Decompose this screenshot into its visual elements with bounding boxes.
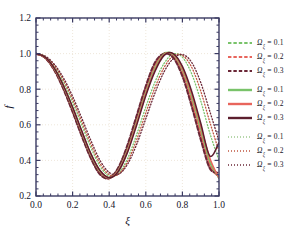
series-line <box>36 53 219 178</box>
legend-line-swatch <box>228 85 252 95</box>
series-line <box>36 54 219 177</box>
legend-item-label: Ωξ = 0.2 <box>257 146 284 157</box>
legend-line-swatch <box>228 52 252 62</box>
legend-line-swatch <box>228 113 252 123</box>
legend-line-swatch <box>228 66 252 76</box>
xtick-label: 0.0 <box>30 200 42 210</box>
legend-item[interactable]: Ωξ = 0.1 <box>228 83 304 97</box>
legend-item-label: Ωξ = 0.2 <box>257 99 284 110</box>
y-axis-title: f <box>2 104 14 109</box>
legend-item[interactable]: Ωξ = 0.2 <box>228 50 304 64</box>
gridlines <box>36 18 219 196</box>
legend-item-label: Ωξ = 0.3 <box>257 66 284 77</box>
xtick-label: 0.2 <box>67 200 79 210</box>
legend-line-swatch <box>228 38 252 48</box>
frame-rect <box>36 18 219 196</box>
legend-item-label: Ωξ = 0.2 <box>257 52 284 63</box>
legend-group-dotted: Ωξ = 0.1Ωξ = 0.2Ωξ = 0.3 <box>228 130 304 172</box>
axis-ticks <box>36 18 219 196</box>
legend-item-label: Ωξ = 0.1 <box>257 132 284 143</box>
legend-item-label: Ωξ = 0.3 <box>257 160 284 171</box>
legend-item[interactable]: Ωξ = 0.1 <box>228 130 304 144</box>
legend-item-label: Ωξ = 0.3 <box>257 113 284 124</box>
series-line <box>36 54 219 175</box>
plot-frame <box>36 18 219 196</box>
legend-group-solid: Ωξ = 0.1Ωξ = 0.2Ωξ = 0.3 <box>228 83 304 125</box>
legend-line-swatch <box>228 146 252 156</box>
legend-item[interactable]: Ωξ = 0.2 <box>228 144 304 158</box>
legend-line-swatch <box>228 132 252 142</box>
series-line <box>36 53 219 178</box>
legend-item[interactable]: Ωξ = 0.3 <box>228 111 304 125</box>
legend-item[interactable]: Ωξ = 0.2 <box>228 97 304 111</box>
legend-group-dashed: Ωξ = 0.1Ωξ = 0.2Ωξ = 0.3 <box>228 36 304 78</box>
legend-line-swatch <box>228 160 252 170</box>
ytick-label: 0.4 <box>19 156 31 166</box>
legend-item-label: Ωξ = 0.1 <box>257 38 284 49</box>
xtick-label: 1.0 <box>213 200 225 210</box>
ytick-label: 1.2 <box>19 13 31 23</box>
legend-item[interactable]: Ωξ = 0.3 <box>228 158 304 172</box>
xtick-label: 0.6 <box>140 200 152 210</box>
x-axis-title: ξ <box>125 214 130 227</box>
legend-item-label: Ωξ = 0.1 <box>257 85 284 96</box>
xtick-label: 0.8 <box>176 200 188 210</box>
legend-item[interactable]: Ωξ = 0.1 <box>228 36 304 50</box>
legend-line-swatch <box>228 99 252 109</box>
xtick-label: 0.4 <box>103 200 115 210</box>
chart-figure: 0.00.20.40.60.81.00.20.40.60.81.01.2ξf Ω… <box>0 0 304 241</box>
series-group <box>36 52 219 178</box>
chart-legend: Ωξ = 0.1Ωξ = 0.2Ωξ = 0.3Ωξ = 0.1Ωξ = 0.2… <box>228 36 304 177</box>
ytick-label: 0.6 <box>19 120 31 130</box>
ytick-label: 0.2 <box>19 191 31 201</box>
legend-item[interactable]: Ωξ = 0.3 <box>228 64 304 78</box>
ytick-label: 0.8 <box>19 85 31 95</box>
ytick-label: 1.0 <box>19 49 31 59</box>
